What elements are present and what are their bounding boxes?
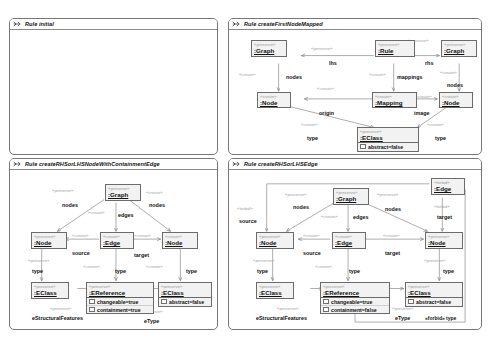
rule-panel-create-rhs-or-lhs-edge[interactable]: Rule createRHSorLHSEdge [228,158,482,330]
object-header: «preserve» :EClass [406,283,462,297]
stereotype-type-right: «create» [427,122,444,127]
object-node-eclass-target[interactable]: «preserve» :EClass abstract=false [158,282,212,307]
object-attributes: changeable=true containment=false [321,297,389,313]
edge-label-forbid-source: source [239,218,257,224]
object-node-eclass-target[interactable]: «preserve» :EClass abstract=false [405,282,463,307]
edge-label-origin: origin [319,110,334,116]
object-node-rule[interactable]: «preserve» :Rule [375,40,415,57]
edge-label-forbid-target: target [437,214,452,220]
panel-titlebar: Rule createRHSorLHSEdge [229,159,481,170]
stereotype-type-right: «preserve» [424,258,446,263]
attribute-icon [323,299,329,304]
object-header: «preserve» :Graph [252,41,286,55]
object-name: :Graph [336,195,366,202]
object-node-node-source[interactable]: «preserve» :Node [31,232,67,249]
object-node-graph[interactable]: «preserve» :Graph [333,188,369,205]
object-attributes: changeable=true containment=true [87,297,153,313]
edge-label-etype: eType [395,315,410,321]
panel-title: Rule createRHSorLHSEdge [244,161,318,167]
object-node-node-target[interactable]: «preserve» :Node [425,232,463,249]
stereotype-edges: «create» [88,210,105,215]
object-node-eclass[interactable]: «preserve» :EClass abstract=false [357,127,419,152]
edge-label-type-left: type [307,135,318,141]
stereotype-type-right: «create» [146,264,163,269]
object-header: «create» :Node [258,93,290,107]
stereotype-type-mid: «create» [315,264,332,269]
object-name: :EReference [323,289,387,296]
panel-title: Rule initial [25,21,54,27]
edge-label-source: source [72,250,90,256]
stereotype-target: «create» [134,233,151,238]
edge-label-image: image [414,110,430,116]
object-header: «preserve» :Graph [334,189,368,203]
object-node-node-image[interactable]: «create» :Node [439,92,473,108]
edge-label-mappings: mappings [397,74,422,80]
attribute-text: abstract=false [416,299,451,305]
attribute-text: containment=true [97,307,141,313]
object-node-eclass-source[interactable]: «preserve» :EClass [31,282,69,299]
rule-panel-create-first-node-mapped[interactable]: Rule createFirstNodeMapped [228,18,482,155]
edge-label-type-right: type [186,268,197,274]
panel-body-initial [10,30,217,154]
stereotype-edges: «create» [321,214,338,219]
edge-label-edges: edges [118,212,134,218]
object-node-ereference[interactable]: «preserve» :EReference changeable=true c… [320,282,390,314]
rule-panel-create-rhs-or-lhs-node-with-containment-edge[interactable]: Rule createRHSorLHSNodeWithContainmentEd… [9,158,218,330]
edge-label-type-right: type [443,268,454,274]
object-name: :Node [165,239,195,246]
object-name: :Graph [108,191,138,198]
stereotype-nodes-left: «create» [239,72,256,77]
object-node-eclass-source[interactable]: «preserve» :EClass [256,282,294,299]
stereotype-source: «create» [303,233,320,238]
stereotype-target: «create» [383,233,400,238]
diagram-canvas: Rule initial Rule createFirstNodeMapped [0,0,491,341]
object-node-node-target[interactable]: «create» :Node [162,232,198,249]
object-name: :Graph [444,47,474,54]
attribute-text: changeable=true [97,299,138,305]
object-header: «preserve» :EClass [257,283,293,297]
object-header: «preserve» :EClass [358,128,418,142]
stereotype-lhs: «preserve» [311,46,333,51]
panel-body-rhs-or-lhs-edge: «forbid» :Edge «preserve» :Graph «preser… [229,170,481,329]
object-node-edge[interactable]: «create» :Edge [100,232,134,249]
stereotype-origin: «create» [317,86,334,91]
object-node-graph[interactable]: «preserve» :Graph [105,184,141,201]
object-node-edge[interactable]: «create» :Edge [332,232,366,249]
edge-label-type-left: type [32,268,43,274]
object-name: :Mapping [375,99,414,106]
panel-titlebar: Rule initial [10,19,217,30]
object-header: «create» :Edge [101,233,133,247]
object-node-edge-forbid[interactable]: «forbid» :Edge [431,178,465,195]
object-node-graph-rhs[interactable]: «preserve» :Graph [441,40,477,57]
stereotype-estructuralfeatures: «preserve» [50,306,72,311]
edge-label-edges: edges [353,214,369,220]
attribute-icon [161,299,167,304]
object-node-ereference[interactable]: «preserve» :EReference changeable=true c… [86,282,154,314]
panel-titlebar: Rule createFirstNodeMapped [229,19,481,30]
stereotype-type-left: «create» [301,122,318,127]
object-node-node-origin[interactable]: «create» :Node [257,92,291,108]
object-name: :EReference [89,289,151,296]
stereotype-nodes-right: «preserve» [377,192,399,197]
edge-label-rhs: rhs [425,60,433,66]
object-header: «preserve» :Node [257,233,293,247]
object-header: «preserve» :EClass [159,283,211,297]
object-name: :Node [260,99,288,106]
attribute-icon [360,144,366,149]
stereotype-type-left: «preserve» [253,258,275,263]
object-name: :EClass [408,289,460,296]
stereotype-nodes-right: «create» [146,190,163,195]
rule-panel-initial[interactable]: Rule initial [9,18,218,155]
rule-arrow-icon [232,160,241,168]
object-name: :Edge [103,239,131,246]
panel-titlebar: Rule createRHSorLHSNodeWithContainmentEd… [10,159,217,170]
object-attributes: abstract=false [358,142,418,150]
object-node-mapping[interactable]: «create» :Mapping [372,92,417,108]
object-header: «create» :Mapping [373,93,416,107]
panel-body-containment-edge: «preserve» :Graph «preserve» :Node «crea… [10,170,217,329]
edge-label-type-left: type [257,268,268,274]
object-node-graph-lhs[interactable]: «preserve» :Graph [251,40,287,57]
object-header: «preserve» :Node [32,233,66,247]
attribute-row: changeable=true [87,298,153,305]
object-node-node-source[interactable]: «preserve» :Node [256,232,294,249]
